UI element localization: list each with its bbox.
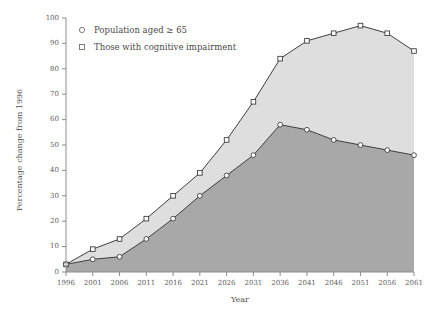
data-point-circle-2016 (171, 216, 176, 221)
x-tick-label: 2046 (325, 279, 343, 287)
x-tick-label: 2001 (84, 279, 102, 287)
x-tick-label: 2006 (111, 279, 129, 287)
data-point-square-2061 (412, 49, 417, 54)
y-tick-label: 60 (50, 115, 59, 123)
data-point-square-2041 (305, 39, 310, 44)
y-tick-label: 40 (50, 166, 59, 174)
population-change-area-chart: 0102030405060708090100 19962001200620112… (0, 0, 437, 320)
y-tick-label: 90 (50, 39, 59, 47)
y-tick-label: 20 (50, 217, 59, 225)
data-point-square-2011 (144, 216, 149, 221)
data-point-square-2046 (331, 31, 336, 36)
x-tick-label: 1996 (57, 279, 75, 287)
data-point-square-2056 (385, 31, 390, 36)
chart-legend: Population aged ≥ 65Those with cognitive… (79, 25, 236, 52)
data-point-square-2051 (358, 23, 363, 28)
data-point-circle-2036 (278, 122, 283, 127)
data-point-circle-2021 (197, 193, 202, 198)
x-tick-label: 2056 (378, 279, 396, 287)
data-point-square-2021 (198, 171, 203, 176)
x-tick-label: 2031 (244, 279, 262, 287)
x-tick-label: 2011 (137, 279, 155, 287)
data-point-circle-2041 (305, 127, 310, 132)
data-point-square-2026 (224, 138, 229, 143)
x-axis-title: Year (230, 295, 249, 304)
legend-label: Population aged ≥ 65 (94, 25, 187, 35)
x-axis-ticks: 1996200120062011201620212026203120362041… (57, 272, 423, 287)
chart-container: 0102030405060708090100 19962001200620112… (0, 0, 437, 320)
legend-label: Those with cognitive impairment (94, 42, 237, 52)
plot-area (64, 23, 417, 272)
y-tick-label: 50 (50, 141, 59, 149)
x-tick-label: 2026 (218, 279, 236, 287)
y-tick-label: 0 (55, 268, 59, 276)
data-point-circle-2001 (90, 257, 95, 262)
data-point-circle-2006 (117, 254, 122, 259)
y-tick-label: 70 (50, 90, 59, 98)
data-point-square-2006 (117, 237, 122, 242)
y-axis-title: Percentage change from 1996 (15, 89, 24, 211)
x-tick-label: 2061 (405, 279, 423, 287)
y-tick-label: 80 (50, 65, 59, 73)
data-point-circle-2046 (331, 138, 336, 143)
y-axis-ticks: 0102030405060708090100 (46, 14, 66, 276)
data-point-circle-2056 (385, 148, 390, 153)
series-areas (66, 26, 414, 272)
y-tick-label: 100 (46, 14, 59, 22)
legend-marker-square (80, 45, 85, 50)
x-tick-label: 2016 (164, 279, 182, 287)
x-tick-label: 2036 (271, 279, 289, 287)
data-point-circle-2011 (144, 237, 149, 242)
legend-marker-circle (79, 27, 84, 32)
data-point-square-2031 (251, 100, 256, 105)
x-tick-label: 2051 (352, 279, 370, 287)
data-point-circle-2051 (358, 143, 363, 148)
data-point-square-2016 (171, 194, 176, 199)
x-tick-label: 2041 (298, 279, 316, 287)
data-point-circle-2031 (251, 153, 256, 158)
y-tick-label: 10 (50, 242, 59, 250)
y-tick-label: 30 (50, 192, 59, 200)
data-point-square-2001 (90, 247, 95, 252)
data-point-circle-2026 (224, 173, 229, 178)
x-tick-label: 2021 (191, 279, 209, 287)
data-point-square-2036 (278, 56, 283, 61)
data-point-circle-2061 (412, 153, 417, 158)
